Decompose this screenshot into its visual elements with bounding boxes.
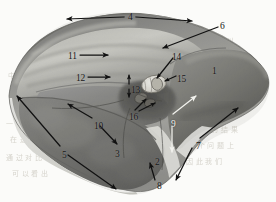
- label-1: 1: [212, 67, 217, 77]
- label-13: 13: [131, 86, 140, 96]
- label-3: 3: [115, 150, 120, 160]
- photo-grain-overlay: [0, 0, 276, 202]
- label-15: 15: [177, 75, 186, 85]
- anatomical-figure: 比 如 可 以中 国 学 术有 可 能 会分 析 的 结 果这 个 问 题 上因…: [0, 0, 276, 202]
- label-11: 11: [68, 52, 77, 62]
- label-16: 16: [129, 113, 138, 123]
- label-2: 2: [155, 158, 160, 168]
- label-4: 4: [128, 13, 133, 23]
- label-14: 14: [172, 53, 181, 63]
- specimen-body: [0, 0, 276, 202]
- label-12: 12: [76, 74, 85, 84]
- label-7: 7: [196, 142, 201, 152]
- label-5: 5: [62, 151, 67, 161]
- label-10: 10: [94, 122, 103, 132]
- label-6: 6: [220, 22, 225, 32]
- specimen-photograph: [0, 0, 276, 202]
- label-8: 8: [157, 182, 162, 192]
- label-9: 9: [171, 120, 176, 130]
